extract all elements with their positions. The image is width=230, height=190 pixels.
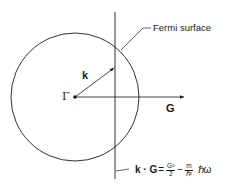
fraction-1-denominator: 2 [169, 171, 173, 178]
equation-fraction-1: G² 2 [166, 163, 175, 177]
gamma-point-dot [73, 95, 77, 99]
gamma-point-label: Γ [62, 91, 70, 102]
G-vector-label: G [166, 103, 175, 114]
fermi-surface-label: Fermi surface [153, 23, 211, 33]
equation-tail: ℏω [198, 165, 212, 175]
equation-leader-line [116, 169, 129, 171]
bragg-plane-equation: k · G = G² 2 − m ℏ² ℏω [135, 163, 212, 177]
fraction-2-denominator: ℏ² [186, 171, 192, 178]
equation-fraction-2: m ℏ² [185, 163, 192, 177]
equation-lhs: k · G [135, 165, 157, 175]
k-vector-label: k [82, 70, 88, 81]
equation-equals: = [158, 165, 164, 175]
equation-minus: − [177, 165, 183, 175]
k-vector-arrow [75, 68, 114, 97]
fermi-surface-leader-line [121, 28, 151, 50]
